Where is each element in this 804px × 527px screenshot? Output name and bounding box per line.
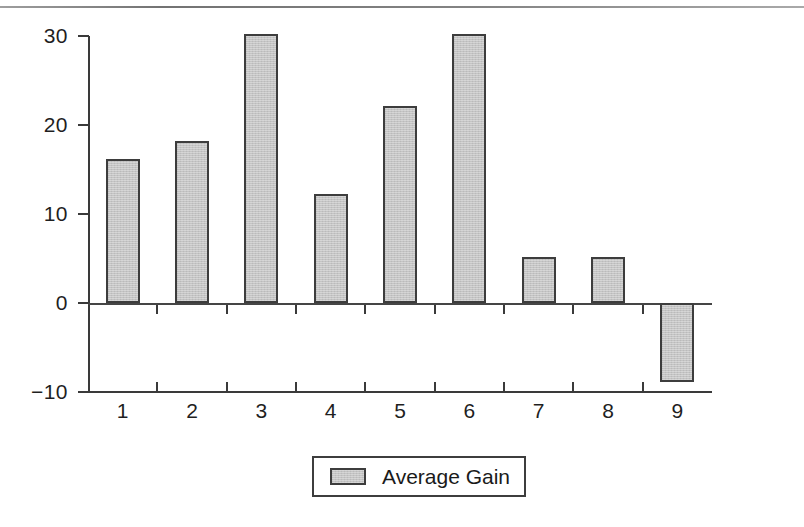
- bar: [522, 257, 556, 303]
- x-axis-tick-label: 8: [588, 399, 628, 423]
- legend-swatch-icon: [330, 468, 366, 485]
- y-axis-tick-label: 10: [8, 203, 68, 224]
- x-axis-tick-baseline: [295, 305, 297, 314]
- x-axis-tick-label: 5: [380, 399, 420, 423]
- x-axis-tick: [156, 382, 158, 392]
- y-axis-tick-label: 20: [8, 114, 68, 135]
- bar: [244, 34, 278, 303]
- x-axis-tick: [572, 382, 574, 392]
- x-axis-tick-baseline: [434, 305, 436, 314]
- x-axis-tick-baseline: [226, 305, 228, 314]
- x-axis-tick: [364, 382, 366, 392]
- x-axis-tick: [434, 382, 436, 392]
- bar-chart-figure: 3020100−10 123456789 Average Gain: [0, 0, 804, 527]
- x-axis-tick-baseline: [503, 305, 505, 314]
- y-axis-tick-label: 0: [8, 292, 68, 313]
- legend-label: Average Gain: [382, 466, 510, 487]
- x-axis-tick-baseline: [572, 305, 574, 314]
- y-axis-tick-label: −10: [8, 381, 68, 402]
- x-axis-tick-label: 3: [241, 399, 281, 423]
- x-axis-tick-baseline: [364, 305, 366, 314]
- x-axis-tick-label: 6: [449, 399, 489, 423]
- bar: [383, 106, 417, 303]
- bar: [660, 303, 694, 382]
- x-axis-tick-baseline: [156, 305, 158, 314]
- bar: [314, 194, 348, 303]
- y-axis-tick-label: 30: [8, 25, 68, 46]
- x-axis-tick-label: 7: [519, 399, 559, 423]
- x-axis-tick: [642, 382, 644, 392]
- bar: [175, 141, 209, 303]
- x-axis-tick-baseline: [642, 305, 644, 314]
- x-axis-tick-label: 4: [311, 399, 351, 423]
- chart-legend: Average Gain: [312, 456, 526, 497]
- x-axis-tick: [226, 382, 228, 392]
- bar: [452, 34, 486, 303]
- x-axis-tick-label: 2: [172, 399, 212, 423]
- bar: [106, 159, 140, 303]
- x-axis-tick: [503, 382, 505, 392]
- x-axis-tick: [295, 382, 297, 392]
- x-axis-tick-label: 9: [657, 399, 697, 423]
- x-axis-tick-label: 1: [103, 399, 143, 423]
- bar: [591, 257, 625, 303]
